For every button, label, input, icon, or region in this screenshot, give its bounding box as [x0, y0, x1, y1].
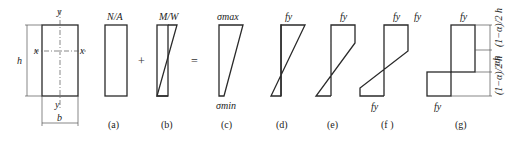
axis-x-right-label: x: [79, 45, 85, 56]
label-fy-top: fy: [460, 11, 468, 22]
caption-e: (e): [327, 119, 338, 131]
plus-sign: +: [138, 54, 145, 68]
dim-top: (1−α)/2 h: [493, 8, 505, 47]
dim-bottom: (1−α)/2 h: [493, 56, 505, 95]
diagram-g: fy fy (1−α)/2 h αh (1−α)/2 h (g): [427, 8, 505, 131]
diagram-e: fy (e): [316, 11, 355, 131]
caption-a: (a): [108, 119, 119, 131]
diagram-d: fy (d): [271, 11, 305, 131]
caption-f: (f ): [381, 119, 394, 131]
diagram-a: N/A (a): [105, 11, 127, 131]
stress-distribution-diagram: y y x x h b N/A (a) + M/W (b) = σmax σmi…: [0, 0, 522, 141]
axis-y-bottom-label: y: [54, 99, 60, 110]
axis-x-left-label: x: [33, 45, 39, 56]
caption-d: (d): [276, 119, 288, 131]
label-fy-bottom: fy: [434, 101, 442, 112]
equals-sign: =: [191, 54, 198, 68]
cross-section: y y x x h b: [17, 6, 86, 126]
diagram-b: M/W (b): [157, 11, 180, 131]
axis-y-label: y: [56, 6, 62, 17]
label-m-over-w: M/W: [158, 11, 180, 22]
caption-b: (b): [161, 119, 173, 131]
label-sigma-min: σmin: [216, 100, 236, 111]
diagram-f: fy fy fy (f ): [360, 11, 422, 131]
width-label: b: [57, 112, 62, 123]
label-fy-right: fy: [414, 11, 422, 22]
label-fy-top: fy: [393, 11, 401, 22]
caption-c: (c): [221, 119, 232, 131]
label-n-over-a: N/A: [106, 11, 123, 22]
height-label: h: [17, 55, 22, 66]
label-sigma-max: σmax: [217, 11, 239, 22]
label-fy-bottom: fy: [371, 101, 379, 112]
diagram-c: σmax σmin (c): [216, 11, 243, 131]
label-fy: fy: [285, 11, 293, 22]
caption-g: (g): [455, 119, 467, 131]
label-fy: fy: [340, 11, 348, 22]
